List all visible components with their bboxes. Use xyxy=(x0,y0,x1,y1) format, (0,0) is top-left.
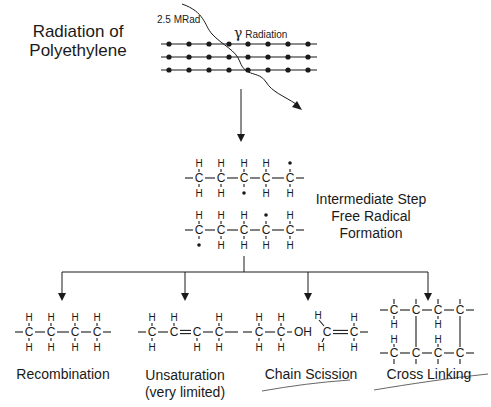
carbon-atom: C xyxy=(215,325,224,339)
hydrogen-atom: H xyxy=(47,342,54,353)
polymer-atom-dot xyxy=(265,41,270,46)
hydrogen-atom: H xyxy=(215,312,222,323)
outcome-chain-scission-label: Chain Scission xyxy=(253,367,369,383)
hydrogen-atom: H xyxy=(148,312,155,323)
hydrogen-atom: H xyxy=(195,210,202,221)
polymer-atom-dot xyxy=(226,41,231,46)
polymer-atom-dot xyxy=(305,41,310,46)
polymer-atom-dot xyxy=(226,54,231,59)
hydrogen-atom: H xyxy=(47,312,54,323)
hydrogen-atom: H xyxy=(170,312,177,323)
gamma-symbol: γ xyxy=(234,25,242,41)
hydrogen-atom: H xyxy=(215,342,222,353)
hydrogen-atom: H xyxy=(240,158,247,169)
polymer-atom-dot xyxy=(305,67,310,72)
carbon-atom: C xyxy=(412,346,421,360)
carbon-atom: C xyxy=(434,346,443,360)
carbon-atom: C xyxy=(262,223,271,237)
polymer-atom-dot xyxy=(285,41,290,46)
carbon-atom: C xyxy=(286,171,295,185)
carbon-atom: C xyxy=(93,325,102,339)
radical-dot xyxy=(288,161,292,165)
polymer-atom-dot xyxy=(226,67,231,72)
unsaturation-note: (very limited) xyxy=(128,384,242,401)
carbon-atom: C xyxy=(456,346,465,360)
carbon-atom: C xyxy=(217,171,226,185)
hydrogen-atom: H xyxy=(434,319,441,330)
carbon-atom: C xyxy=(286,223,295,237)
hydrogen-atom: H xyxy=(217,210,224,221)
intermediate-step-label: Intermediate Step Free Radical Formation xyxy=(306,191,436,242)
carbon-atom: C xyxy=(25,325,34,339)
hydrogen-atom: H xyxy=(277,312,284,323)
carbon-atom: C xyxy=(240,171,249,185)
carbon-atom: C xyxy=(240,223,249,237)
polymer-atom-dot xyxy=(166,41,171,46)
carbon-atom: C xyxy=(350,325,359,339)
carbon-atom: C xyxy=(262,171,271,185)
carbon-atom: C xyxy=(47,325,56,339)
carbon-atom: C xyxy=(456,303,465,317)
polymer-atom-dot xyxy=(206,41,211,46)
hydrogen-atom: H xyxy=(350,312,357,323)
hydrogen-atom: H xyxy=(25,312,32,323)
hydrogen-atom: H xyxy=(262,158,269,169)
branch-arrowhead xyxy=(424,293,432,301)
intermediate-line-3: Formation xyxy=(306,225,436,242)
outcome-unsaturation-label: Unsaturation (very limited) xyxy=(128,367,242,401)
title-line-2: Polyethylene xyxy=(18,41,138,60)
polymer-atom-dot xyxy=(285,67,290,72)
hydrogen-atom: H xyxy=(350,342,357,353)
carbon-atom: C xyxy=(323,325,332,339)
carbon-atom: C xyxy=(148,325,157,339)
polymer-atom-dot xyxy=(186,54,191,59)
carbon-atom: C xyxy=(193,325,202,339)
intermediate-line-2: Free Radical xyxy=(306,208,436,225)
hydrogen-atom: H xyxy=(255,342,262,353)
polymer-atom-dot xyxy=(186,41,191,46)
hydrogen-atom: H xyxy=(217,158,224,169)
hydrogen-atom: H xyxy=(286,210,293,221)
branch-arrowhead xyxy=(181,293,189,301)
hydrogen-atom: H xyxy=(71,312,78,323)
carbon-atom: C xyxy=(71,325,80,339)
dose-label: 2.5 MRad xyxy=(157,14,200,25)
cross-linking-text: Cross Linking xyxy=(373,367,485,383)
polymer-atom-dot xyxy=(265,67,270,72)
radical-dot xyxy=(264,213,268,217)
hydrogen-atom: H xyxy=(217,240,224,251)
hydrogen-atom: H xyxy=(314,310,321,321)
hydrogen-atom: H xyxy=(286,240,293,251)
radiation-text: Radiation xyxy=(245,29,287,40)
hydrogen-atom: H xyxy=(195,188,202,199)
outcome-recombination-label: Recombination xyxy=(8,367,118,383)
radical-dot xyxy=(242,191,246,195)
polymer-atom-dot xyxy=(265,54,270,59)
hydrogen-atom: H xyxy=(25,342,32,353)
hydrogen-atom: H xyxy=(93,312,100,323)
hydrogen-atom: H xyxy=(262,240,269,251)
polymer-atom-dot xyxy=(245,41,250,46)
outcome-cross-linking-label: Cross Linking xyxy=(373,367,485,383)
carbon-atom: C xyxy=(412,303,421,317)
hydrogen-atom: H xyxy=(195,158,202,169)
carbon-atom: C xyxy=(390,346,399,360)
hydrogen-atom: H xyxy=(240,240,247,251)
carbon-atom: C xyxy=(217,223,226,237)
carbon-atom: C xyxy=(390,303,399,317)
polymer-atom-dot xyxy=(186,67,191,72)
polymer-atom-dot xyxy=(206,54,211,59)
branch-arrowhead xyxy=(304,293,312,301)
chain-scission-text: Chain Scission xyxy=(253,367,369,383)
hydrogen-atom: H xyxy=(317,342,324,353)
hydrogen-atom: H xyxy=(193,342,200,353)
intermediate-line-1: Intermediate Step xyxy=(306,191,436,208)
hydrogen-atom: H xyxy=(93,342,100,353)
hydrogen-atom: H xyxy=(390,319,397,330)
polyethylene-radiation-diagram: CCCCCHHHHHHHHCCCCCHHHHHHHHCCCCHHHHHHHHCC… xyxy=(0,0,491,407)
recombination-text: Recombination xyxy=(8,367,118,383)
hydrogen-atom: H xyxy=(240,210,247,221)
hydrogen-atom: H xyxy=(286,188,293,199)
title-label: Radiation of Polyethylene xyxy=(18,22,138,60)
carbon-atom: C xyxy=(277,325,286,339)
